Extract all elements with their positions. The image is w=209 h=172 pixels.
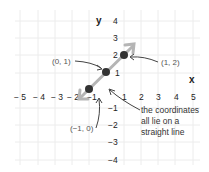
svg-text:− 5: − 5 <box>14 92 26 102</box>
svg-text:(0, 1): (0, 1) <box>52 57 71 66</box>
svg-text:− 4: − 4 <box>33 92 45 102</box>
point-0-1 <box>102 68 110 76</box>
x-tick-labels: − 5 − 4 − 3 − 2 −1 1 2 3 4 5 <box>14 92 196 102</box>
svg-text:2: 2 <box>113 50 118 60</box>
svg-text:− 3: − 3 <box>51 92 63 102</box>
point-neg1-0 <box>85 85 93 93</box>
svg-text:3: 3 <box>113 33 118 43</box>
svg-text:4: 4 <box>113 16 118 26</box>
svg-text:(−1, 0): (−1, 0) <box>70 124 94 133</box>
svg-text:straight line: straight line <box>141 127 185 137</box>
svg-text:the coordinates: the coordinates <box>141 105 199 115</box>
svg-text:1: 1 <box>115 68 120 78</box>
svg-text:−3: −3 <box>108 137 118 147</box>
svg-text:−2: −2 <box>108 120 118 130</box>
svg-text:−1: −1 <box>87 92 97 102</box>
point-1-2 <box>120 51 128 59</box>
svg-text:−1: −1 <box>108 103 118 113</box>
svg-text:4: 4 <box>174 92 179 102</box>
svg-text:(1, 2): (1, 2) <box>161 58 180 67</box>
svg-text:3: 3 <box>156 92 161 102</box>
annotation-text: the coordinates all lie on a straight li… <box>141 105 199 137</box>
coordinate-graph: y x 4 3 2 1 −1 −2 −3 −4 − 5 − 4 − 3 − 2 … <box>0 0 209 172</box>
y-axis-label: y <box>96 15 102 26</box>
svg-text:2: 2 <box>139 92 144 102</box>
svg-text:5: 5 <box>191 92 196 102</box>
data-points <box>85 51 128 93</box>
svg-text:−4: −4 <box>108 155 118 165</box>
svg-text:all lie on a: all lie on a <box>141 116 180 126</box>
x-axis-label: x <box>189 74 195 85</box>
